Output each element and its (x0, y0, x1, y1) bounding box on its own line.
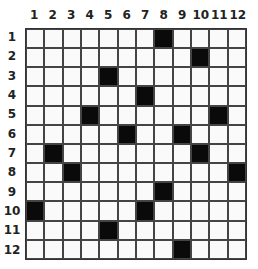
black-cell[interactable] (99, 67, 117, 86)
empty-cell[interactable] (191, 67, 209, 86)
empty-cell[interactable] (44, 125, 62, 144)
empty-cell[interactable] (81, 201, 99, 220)
black-cell[interactable] (63, 163, 81, 182)
empty-cell[interactable] (209, 29, 227, 48)
empty-cell[interactable] (44, 29, 62, 48)
empty-cell[interactable] (81, 48, 99, 67)
empty-cell[interactable] (99, 201, 117, 220)
empty-cell[interactable] (173, 48, 191, 67)
empty-cell[interactable] (173, 67, 191, 86)
empty-cell[interactable] (173, 163, 191, 182)
empty-cell[interactable] (99, 240, 117, 259)
empty-cell[interactable] (44, 86, 62, 105)
empty-cell[interactable] (99, 182, 117, 201)
empty-cell[interactable] (44, 48, 62, 67)
empty-cell[interactable] (81, 163, 99, 182)
empty-cell[interactable] (44, 201, 62, 220)
black-cell[interactable] (154, 182, 172, 201)
empty-cell[interactable] (154, 144, 172, 163)
empty-cell[interactable] (63, 48, 81, 67)
empty-cell[interactable] (173, 106, 191, 125)
black-cell[interactable] (191, 48, 209, 67)
black-cell[interactable] (173, 125, 191, 144)
empty-cell[interactable] (228, 221, 246, 240)
empty-cell[interactable] (209, 240, 227, 259)
empty-cell[interactable] (228, 182, 246, 201)
empty-cell[interactable] (209, 201, 227, 220)
empty-cell[interactable] (154, 86, 172, 105)
empty-cell[interactable] (63, 221, 81, 240)
empty-cell[interactable] (228, 125, 246, 144)
empty-cell[interactable] (44, 67, 62, 86)
empty-cell[interactable] (26, 125, 44, 144)
black-cell[interactable] (118, 125, 136, 144)
empty-cell[interactable] (44, 106, 62, 125)
empty-cell[interactable] (63, 182, 81, 201)
empty-cell[interactable] (191, 201, 209, 220)
empty-cell[interactable] (209, 86, 227, 105)
empty-cell[interactable] (228, 240, 246, 259)
empty-cell[interactable] (118, 221, 136, 240)
empty-cell[interactable] (99, 144, 117, 163)
empty-cell[interactable] (209, 125, 227, 144)
empty-cell[interactable] (209, 144, 227, 163)
empty-cell[interactable] (81, 240, 99, 259)
empty-cell[interactable] (154, 67, 172, 86)
empty-cell[interactable] (44, 163, 62, 182)
empty-cell[interactable] (191, 163, 209, 182)
empty-cell[interactable] (136, 48, 154, 67)
empty-cell[interactable] (136, 67, 154, 86)
empty-cell[interactable] (81, 125, 99, 144)
empty-cell[interactable] (191, 240, 209, 259)
empty-cell[interactable] (118, 201, 136, 220)
empty-cell[interactable] (209, 182, 227, 201)
empty-cell[interactable] (81, 144, 99, 163)
empty-cell[interactable] (136, 106, 154, 125)
empty-cell[interactable] (136, 144, 154, 163)
empty-cell[interactable] (154, 240, 172, 259)
empty-cell[interactable] (173, 86, 191, 105)
empty-cell[interactable] (136, 125, 154, 144)
empty-cell[interactable] (81, 221, 99, 240)
empty-cell[interactable] (99, 86, 117, 105)
empty-cell[interactable] (26, 221, 44, 240)
empty-cell[interactable] (99, 163, 117, 182)
empty-cell[interactable] (26, 48, 44, 67)
empty-cell[interactable] (209, 221, 227, 240)
empty-cell[interactable] (63, 86, 81, 105)
empty-cell[interactable] (209, 163, 227, 182)
empty-cell[interactable] (63, 29, 81, 48)
empty-cell[interactable] (136, 182, 154, 201)
empty-cell[interactable] (118, 67, 136, 86)
empty-cell[interactable] (228, 144, 246, 163)
empty-cell[interactable] (26, 182, 44, 201)
empty-cell[interactable] (136, 29, 154, 48)
empty-cell[interactable] (173, 221, 191, 240)
empty-cell[interactable] (63, 125, 81, 144)
empty-cell[interactable] (154, 221, 172, 240)
empty-cell[interactable] (99, 125, 117, 144)
black-cell[interactable] (81, 106, 99, 125)
empty-cell[interactable] (191, 29, 209, 48)
empty-cell[interactable] (136, 163, 154, 182)
empty-cell[interactable] (81, 67, 99, 86)
empty-cell[interactable] (228, 67, 246, 86)
empty-cell[interactable] (173, 29, 191, 48)
empty-cell[interactable] (209, 48, 227, 67)
empty-cell[interactable] (26, 86, 44, 105)
empty-cell[interactable] (228, 86, 246, 105)
black-cell[interactable] (26, 201, 44, 220)
empty-cell[interactable] (136, 221, 154, 240)
empty-cell[interactable] (154, 125, 172, 144)
black-cell[interactable] (191, 144, 209, 163)
empty-cell[interactable] (63, 67, 81, 86)
empty-cell[interactable] (136, 240, 154, 259)
empty-cell[interactable] (191, 125, 209, 144)
empty-cell[interactable] (118, 29, 136, 48)
empty-cell[interactable] (63, 106, 81, 125)
empty-cell[interactable] (63, 240, 81, 259)
empty-cell[interactable] (154, 106, 172, 125)
empty-cell[interactable] (26, 67, 44, 86)
empty-cell[interactable] (118, 240, 136, 259)
empty-cell[interactable] (99, 29, 117, 48)
